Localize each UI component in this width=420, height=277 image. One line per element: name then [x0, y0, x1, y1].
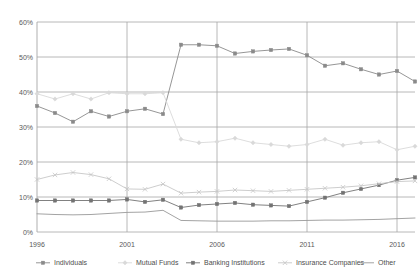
data-point-marker	[197, 141, 201, 145]
data-point-marker	[395, 69, 398, 72]
x-axis-tick-labels: 19962001200620112016	[29, 241, 405, 248]
data-point-marker	[161, 198, 164, 201]
data-point-marker	[305, 142, 309, 146]
data-point-marker	[377, 140, 381, 144]
data-point-marker	[123, 261, 127, 265]
data-point-marker	[233, 136, 237, 140]
data-point-marker	[107, 199, 110, 202]
data-point-marker	[197, 203, 200, 206]
x-tick-label: 2011	[299, 241, 314, 248]
legend-label: Banking Institutions	[204, 259, 265, 267]
series-insurance-companies	[35, 170, 417, 195]
y-tick-label: 40%	[19, 89, 33, 96]
data-point-marker	[53, 111, 56, 114]
data-point-marker	[53, 97, 57, 101]
legend-item-mutual-funds[interactable]: Mutual Funds	[118, 259, 179, 266]
legend-item-individuals[interactable]: Individuals	[36, 259, 88, 266]
y-axis-tick-labels: 60%50%40%30%20%10%0%	[19, 19, 33, 236]
data-point-marker	[233, 201, 236, 204]
series-banking-institutions	[35, 176, 416, 210]
data-point-marker	[53, 199, 56, 202]
data-point-marker	[179, 43, 182, 46]
series-line	[37, 173, 415, 194]
data-series-group	[35, 43, 417, 221]
x-tick-label: 2001	[119, 241, 135, 248]
data-point-marker	[251, 141, 255, 145]
data-point-marker	[251, 50, 254, 53]
data-point-marker	[269, 142, 273, 146]
data-point-marker	[35, 104, 38, 107]
data-point-marker	[71, 120, 74, 123]
series-other	[37, 210, 415, 221]
series-line	[37, 93, 415, 150]
data-point-marker	[341, 143, 345, 147]
data-point-marker	[359, 187, 362, 190]
y-tick-label: 0%	[23, 229, 33, 236]
y-tick-label: 50%	[19, 54, 33, 61]
data-point-marker	[287, 204, 290, 207]
x-tick-label: 2006	[209, 241, 225, 248]
data-point-marker	[35, 199, 38, 202]
data-point-marker	[305, 200, 308, 203]
data-point-marker	[89, 199, 92, 202]
data-point-marker	[359, 68, 362, 71]
series-individuals	[35, 43, 416, 123]
series-line	[37, 45, 415, 122]
data-point-marker	[89, 110, 92, 113]
data-point-marker	[413, 144, 417, 148]
chart-container: 60%50%40%30%20%10%0% 1996200120062011201…	[0, 0, 420, 277]
data-point-marker	[251, 203, 254, 206]
line-chart: 60%50%40%30%20%10%0% 1996200120062011201…	[0, 0, 420, 277]
series-mutual-funds	[35, 91, 417, 152]
data-point-marker	[305, 54, 308, 57]
data-point-marker	[341, 62, 344, 65]
legend-label: Insurance Companies	[296, 259, 365, 267]
y-tick-label: 60%	[19, 19, 33, 26]
data-point-marker	[71, 199, 74, 202]
legend-label: Other	[378, 259, 396, 266]
data-point-marker	[215, 140, 219, 144]
data-point-marker	[323, 137, 327, 141]
data-point-marker	[215, 202, 218, 205]
data-point-marker	[179, 137, 183, 141]
y-tick-label: 10%	[19, 194, 33, 201]
data-point-marker	[107, 91, 111, 95]
data-point-marker	[233, 52, 236, 55]
data-point-marker	[191, 261, 194, 264]
data-point-marker	[413, 80, 416, 83]
data-point-marker	[161, 91, 165, 95]
series-line	[37, 177, 415, 207]
data-point-marker	[269, 204, 272, 207]
data-point-marker	[323, 196, 326, 199]
legend-item-insurance-companies[interactable]: Insurance Companies	[278, 259, 365, 267]
data-point-marker	[89, 97, 93, 101]
data-point-marker	[323, 64, 326, 67]
data-point-marker	[215, 44, 218, 47]
data-point-marker	[359, 141, 363, 145]
data-point-marker	[287, 144, 291, 148]
data-point-marker	[143, 200, 146, 203]
data-point-marker	[413, 176, 416, 179]
legend-item-banking-institutions[interactable]: Banking Institutions	[186, 259, 265, 267]
data-point-marker	[125, 110, 128, 113]
legend-item-other[interactable]: Other	[360, 259, 396, 266]
y-tick-label: 30%	[19, 124, 33, 131]
data-point-marker	[161, 112, 164, 115]
x-tick-label: 2016	[389, 241, 405, 248]
chart-legend: IndividualsMutual FundsBanking Instituti…	[36, 259, 396, 267]
data-point-marker	[377, 73, 380, 76]
legend-label: Mutual Funds	[136, 259, 179, 266]
data-point-marker	[197, 43, 200, 46]
legend-label: Individuals	[54, 259, 88, 266]
series-line	[37, 210, 415, 221]
x-tick-label: 1996	[29, 241, 45, 248]
data-point-marker	[269, 48, 272, 51]
data-point-marker	[341, 191, 344, 194]
data-point-marker	[41, 261, 44, 264]
data-point-marker	[179, 206, 182, 209]
data-point-marker	[395, 148, 399, 152]
data-point-marker	[287, 47, 290, 50]
y-tick-label: 20%	[19, 159, 33, 166]
data-point-marker	[107, 115, 110, 118]
data-point-marker	[125, 198, 128, 201]
